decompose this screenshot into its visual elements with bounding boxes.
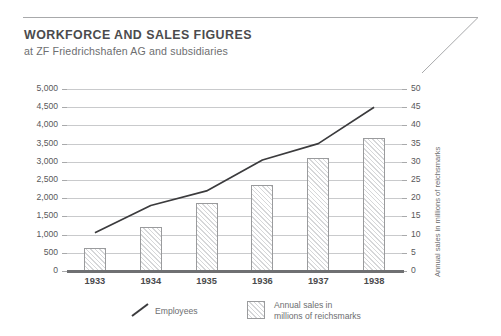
tick-mark-right [402, 198, 407, 199]
tick-mark-right [402, 216, 407, 217]
y-axis-right-title: Annual sales in millions of reichsmarks [433, 147, 442, 277]
y-axis-left-tick-label: 3,500 [2, 138, 58, 148]
y-axis-left-tick-label: 1,000 [2, 229, 58, 239]
legend-hatched-square-icon [247, 301, 265, 319]
legend-line-marker-icon [130, 302, 150, 318]
y-axis-left-tick-label: 4,500 [2, 101, 58, 111]
y-axis-left-tick-label: 4,000 [2, 119, 58, 129]
y-axis-left-tick-label: 3,000 [2, 156, 58, 166]
chart-legend: Employees Annual sales in millions of re… [0, 298, 501, 328]
x-axis-tick-label: 1933 [65, 276, 125, 286]
y-axis-right-tick-label: 50 [411, 83, 437, 93]
x-axis-tick-label: 1938 [344, 276, 404, 286]
y-axis-left-tick-label: 5,000 [2, 83, 58, 93]
tick-mark-right [402, 180, 407, 181]
y-axis-left-tick-label: 0 [2, 265, 58, 275]
employees-trend-line [95, 107, 374, 233]
tick-mark-right [402, 235, 407, 236]
legend-label-annual-sales: Annual sales in millions of reichsmarks [274, 300, 361, 321]
chart-title: WORKFORCE AND SALES FIGURES [24, 28, 252, 42]
y-axis-right-tick-label: 40 [411, 119, 437, 129]
chart-page: WORKFORCE AND SALES FIGURES at ZF Friedr… [0, 0, 501, 336]
y-axis-left-tick-label: 500 [2, 247, 58, 257]
tick-mark-right [402, 162, 407, 163]
x-axis-tick-label: 1936 [232, 276, 292, 286]
line-series-employees [67, 89, 402, 271]
tick-mark-right [402, 89, 407, 90]
y-axis-left-labels: 05001,0001,5002,0002,5003,0003,5004,0004… [2, 0, 58, 336]
tick-mark-right [402, 107, 407, 108]
tick-mark-right [402, 144, 407, 145]
x-axis-tick-label: 1937 [288, 276, 348, 286]
x-axis-tick-label: 1935 [177, 276, 237, 286]
legend-label-employees: Employees [155, 306, 198, 316]
y-axis-left-tick-label: 2,500 [2, 174, 58, 184]
x-axis-baseline [67, 270, 404, 273]
legend-label-annual-sales-line1: Annual sales in [274, 300, 361, 311]
y-axis-left-tick-label: 1,500 [2, 210, 58, 220]
tick-mark-right [402, 253, 407, 254]
header-rule [23, 17, 478, 18]
tick-mark-right [402, 125, 407, 126]
y-axis-left-tick-label: 2,000 [2, 192, 58, 202]
legend-label-annual-sales-line2: millions of reichsmarks [274, 311, 361, 322]
y-axis-right-tick-label: 45 [411, 101, 437, 111]
x-axis-tick-label: 1934 [121, 276, 181, 286]
